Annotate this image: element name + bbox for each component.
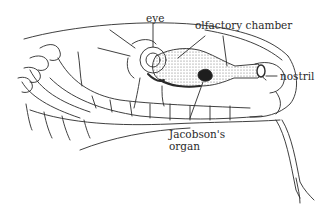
eye-label: eye bbox=[146, 13, 164, 24]
jacobsons-organ-label-line2: organ bbox=[169, 141, 200, 152]
snake-head-illustration bbox=[0, 0, 321, 215]
snake-head-diagram: eye olfactory chamber nostril Jacobson's… bbox=[0, 0, 321, 215]
nostril-label: nostril bbox=[280, 71, 314, 82]
jacobsons-organ-label-line1: Jacobson's bbox=[169, 129, 225, 140]
olfactory-chamber-label: olfactory chamber bbox=[195, 20, 292, 31]
